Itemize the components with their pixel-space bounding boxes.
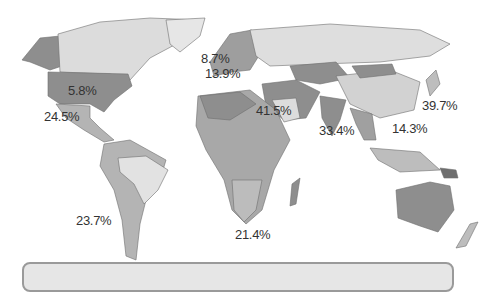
region-australia	[396, 182, 454, 232]
label-northern-europe: 8.7%	[201, 52, 229, 65]
region-indonesia	[370, 148, 440, 172]
label-usa: 5.8%	[68, 84, 96, 97]
region-madagascar	[290, 178, 300, 206]
label-africa: 21.4%	[235, 228, 270, 241]
region-png	[440, 168, 458, 178]
region-japan	[426, 70, 440, 96]
region-southern-africa	[232, 180, 262, 222]
label-western-europe: 13.9%	[205, 67, 240, 80]
label-south-asia: 33.4%	[319, 124, 354, 137]
region-alaska	[22, 36, 62, 70]
label-east-asia: 39.7%	[422, 99, 457, 112]
label-southeast-asia: 14.3%	[392, 122, 427, 135]
region-greenland	[166, 18, 205, 52]
label-mexico: 24.5%	[44, 110, 79, 123]
label-middle-east: 41.5%	[256, 104, 291, 117]
legend-box	[22, 262, 454, 292]
region-russia	[250, 24, 450, 66]
label-south-america: 23.7%	[76, 214, 111, 227]
region-new-zealand	[456, 222, 478, 248]
region-china	[336, 70, 420, 118]
